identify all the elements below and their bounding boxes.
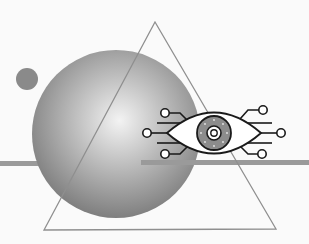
small-dot: [16, 68, 38, 90]
illustration: [0, 0, 309, 244]
right-bar: [141, 160, 309, 165]
left-bar: [0, 161, 42, 166]
